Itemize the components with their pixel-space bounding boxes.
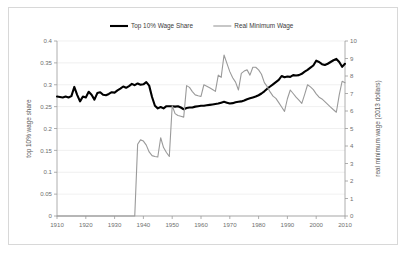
gridlines	[57, 41, 345, 216]
y-left-tick-label: 0.25	[40, 103, 52, 110]
x-tick-label: 1940	[137, 221, 151, 228]
x-axis-ticks: 1910192019301940195019601970198019902000…	[50, 216, 352, 228]
y-right-tick-label: 8	[350, 72, 354, 79]
y-axis-right-title: real minimum wage (2013 dollars)	[374, 80, 382, 176]
series-line-real-minimum-wage	[57, 55, 345, 216]
y-right-tick-label: 6	[350, 107, 354, 114]
y-left-tick-label: 0.15	[40, 147, 52, 154]
legend-label-0: Top 10% Wage Share	[131, 22, 193, 30]
chart-figure: 00.050.10.150.20.250.30.350.401234567891…	[0, 0, 406, 253]
data-series	[57, 55, 345, 216]
y-left-tick-label: 0.2	[44, 125, 53, 132]
x-tick-label: 1970	[223, 221, 237, 228]
y-right-tick-label: 9	[350, 55, 354, 62]
y-left-tick-label: 0.4	[44, 37, 53, 44]
x-tick-label: 1930	[108, 221, 122, 228]
x-tick-label: 2000	[309, 221, 323, 228]
legend: Top 10% Wage ShareReal Minimum Wage	[110, 22, 294, 30]
x-tick-label: 1920	[79, 221, 93, 228]
y-right-tick-label: 1	[350, 195, 354, 202]
x-tick-label: 1980	[252, 221, 266, 228]
x-tick-label: 1960	[194, 221, 208, 228]
y-right-tick-label: 5	[350, 125, 354, 132]
x-tick-label: 1910	[50, 221, 64, 228]
y-left-tick-label: 0.3	[44, 81, 53, 88]
y-right-tick-label: 4	[350, 142, 354, 149]
x-tick-label: 1990	[281, 221, 295, 228]
y-axis-right-ticks: 012345678910	[345, 37, 357, 219]
y-left-tick-label: 0.05	[40, 190, 52, 197]
y-left-tick-label: 0	[49, 212, 53, 219]
y-axis-left-ticks: 00.050.10.150.20.250.30.350.4	[40, 37, 57, 219]
y-axis-left-title: top 10% wage share	[25, 99, 33, 158]
y-right-tick-label: 0	[350, 212, 354, 219]
y-right-tick-label: 3	[350, 160, 354, 167]
y-right-tick-label: 2	[350, 177, 354, 184]
chart-canvas: 00.050.10.150.20.250.30.350.401234567891…	[0, 0, 406, 253]
y-right-tick-label: 7	[350, 90, 354, 97]
y-right-tick-label: 10	[350, 37, 357, 44]
y-left-tick-label: 0.1	[44, 168, 53, 175]
x-tick-label: 1950	[165, 221, 179, 228]
legend-label-1: Real Minimum Wage	[234, 22, 294, 30]
x-tick-label: 2010	[338, 221, 352, 228]
y-left-tick-label: 0.35	[40, 59, 52, 66]
